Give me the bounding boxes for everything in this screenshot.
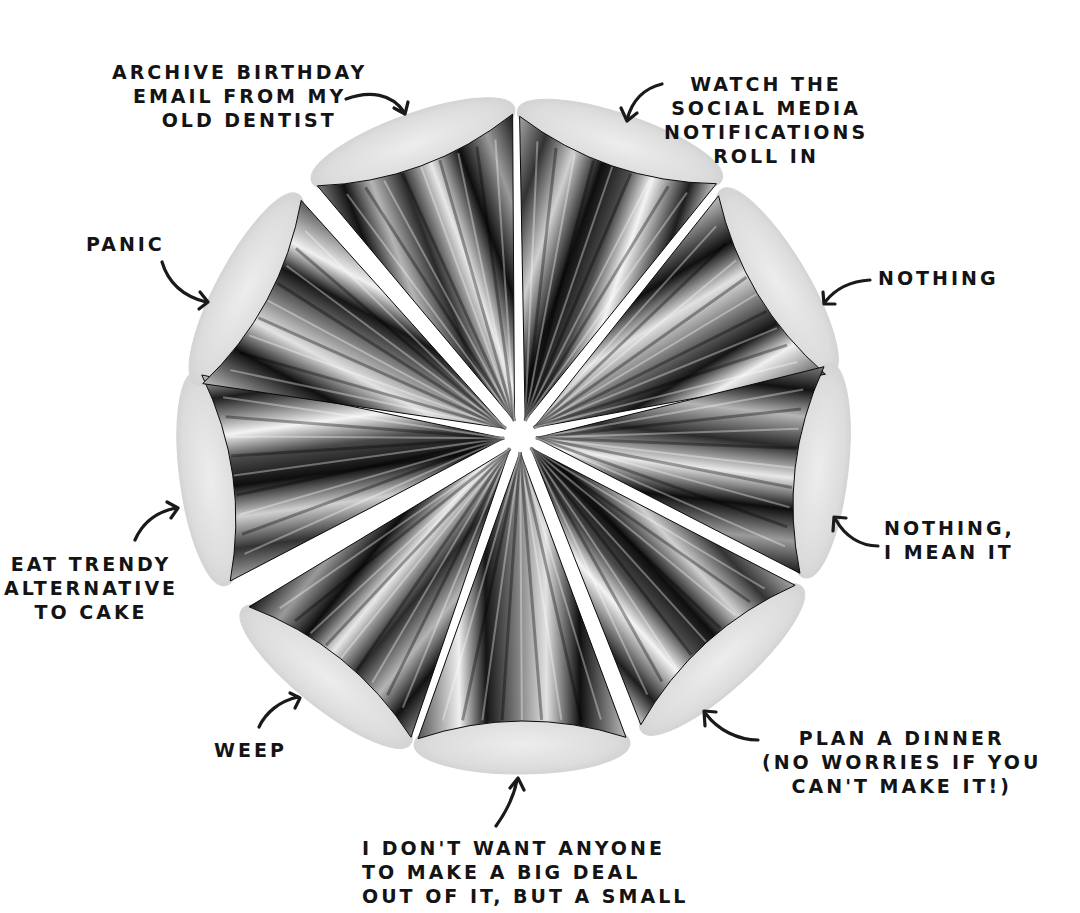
arrow-dont-want-icon [0, 0, 1080, 913]
illustration-stage: ARCHIVE BIRTHDAY EMAIL FROM MY OLD DENTI… [0, 0, 1080, 913]
